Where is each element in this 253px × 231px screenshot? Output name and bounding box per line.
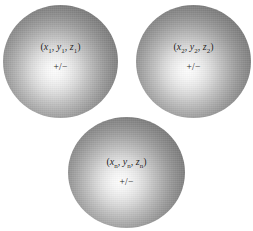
sphere-2-texture bbox=[136, 5, 251, 118]
sphere-3: (xn, yn, zn) +/− bbox=[68, 117, 185, 228]
sphere-2: (x2, y2, z2) +/− bbox=[136, 5, 251, 118]
sphere-1-texture bbox=[3, 5, 118, 118]
sphere-1: (x1, y1, z1) +/− bbox=[3, 5, 118, 118]
sphere-3-texture bbox=[68, 117, 185, 228]
figure-canvas: (x1, y1, z1) +/− (x2, y2, z2) +/− (xn, y… bbox=[0, 0, 253, 231]
